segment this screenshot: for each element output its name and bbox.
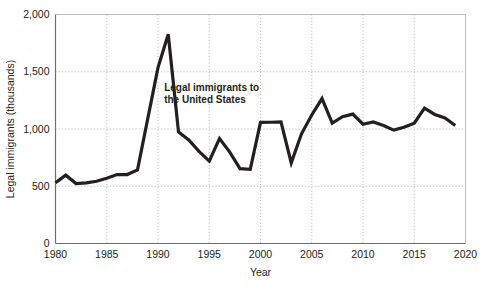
x-tick-label: 2000 bbox=[249, 248, 273, 260]
x-tick-label: 2020 bbox=[454, 248, 478, 260]
y-tick-label: 2,000 bbox=[23, 8, 49, 20]
series-annotation-line2: the United States bbox=[164, 94, 246, 105]
x-axis-title: Year bbox=[250, 266, 272, 278]
x-tick-label: 1985 bbox=[95, 248, 119, 260]
y-tick-label: 500 bbox=[32, 180, 50, 192]
chart-figure: 05001,0001,5002,000 19801985199019952000… bbox=[0, 0, 490, 287]
immigration-line-chart: 05001,0001,5002,000 19801985199019952000… bbox=[0, 0, 490, 287]
x-tick-label: 2005 bbox=[300, 248, 324, 260]
y-tick-label: 1,000 bbox=[23, 123, 49, 135]
x-axis-tick-labels: 198019851990199520002005201020152020 bbox=[44, 248, 478, 260]
x-tick-label: 2015 bbox=[403, 248, 427, 260]
y-tick-label: 1,500 bbox=[23, 65, 49, 77]
series-annotation-line1: Legal immigrants to bbox=[164, 82, 259, 93]
x-tick-label: 1980 bbox=[44, 248, 68, 260]
chart-annotations: Legal immigrants tothe United States bbox=[164, 82, 259, 105]
y-axis-title: Legal immigrants (thousands) bbox=[4, 60, 16, 198]
x-tick-label: 1995 bbox=[198, 248, 222, 260]
x-tick-label: 1990 bbox=[146, 248, 170, 260]
x-tick-label: 2010 bbox=[351, 248, 375, 260]
